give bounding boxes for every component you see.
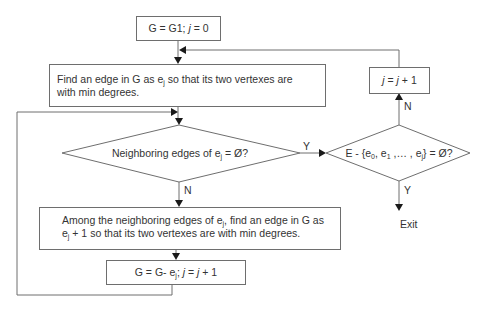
init-text: G = G1; j = 0 [148,22,208,35]
remaining-no-label: N [404,100,412,112]
find-edge-line2: with min degrees. [57,86,325,99]
increment-node: j = j + 1 [369,67,430,94]
neighbor-check-text: Neighboring edges of ej = Ø? [100,147,260,159]
among-line1: Among the neighboring edges of ej, find … [62,214,340,227]
neighbor-yes-label: Y [303,140,310,152]
find-edge-node: Find an edge in G as ej so that its two … [49,64,326,107]
increment-text: j = j + 1 [382,74,416,87]
update-node: G = G- ej; j = j + 1 [106,260,246,285]
neighbor-no-label: N [184,184,192,196]
remaining-check-text: E - {e0, e1 ,… , ej} = Ø? [336,147,462,159]
init-node: G = G1; j = 0 [136,16,221,41]
find-edge-line1: Find an edge in G as ej so that its two … [57,73,325,86]
remaining-yes-label: Y [404,184,411,196]
exit-label: Exit [400,218,418,230]
among-line2: ej + 1 so that its two vertexes are with… [62,227,340,240]
among-node: Among the neighboring edges of ej, find … [39,207,341,250]
update-text: G = G- ej; j = j + 1 [135,266,217,279]
